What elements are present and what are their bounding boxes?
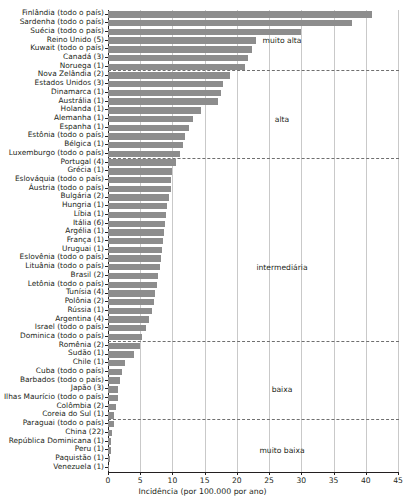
bar [108,107,201,113]
bar-rows: Finlândia (todo o país)Sardenha (todo o … [108,10,398,472]
bar-row: Letônia (todo o país) [108,280,398,289]
bar [108,247,162,253]
bar-row: Romênia (2) [108,341,398,350]
category-annotation-alta: alta [275,115,289,124]
bar [108,325,146,331]
bar-row: Bélgica (1) [108,141,398,150]
bar [108,377,120,383]
gridline-45 [398,10,399,472]
x-tick-mark-45 [398,472,399,475]
bar [108,133,185,139]
bar-row: Estônia (todo o país) [108,132,398,141]
bar [108,421,114,427]
bar-row: Lituânia (todo o país) [108,263,398,272]
x-tick-label-30: 30 [296,476,306,485]
x-axis-title: Incidência (por 100.000 por ano) [0,487,405,496]
bar [108,142,183,148]
bar [108,203,167,209]
category-separator [108,419,399,420]
bar-row: Venezuela (1) [108,463,398,472]
x-tick-mark-10 [172,472,173,475]
bar-row: Uruguai (1) [108,245,398,254]
bar-row: Paraguai (todo o país) [108,420,398,429]
bar-row: Paquistão (1) [108,455,398,464]
bar-row: Eslováquia (todo o país) [108,176,398,185]
bar [108,168,172,174]
x-tick-mark-15 [205,472,206,475]
bar-row: Finlândia (todo o país) [108,10,398,19]
category-separator [108,341,399,342]
bar [108,438,111,444]
bar [108,456,110,462]
bar-row: Brasil (2) [108,272,398,281]
bar-row: Estados Unidos (3) [108,80,398,89]
bar [108,151,180,157]
bar-row: República Dominicana (1) [108,437,398,446]
bar [108,343,140,349]
x-tick-label-45: 45 [393,476,403,485]
bar [108,159,176,165]
x-tick-label-35: 35 [329,476,339,485]
x-tick-mark-30 [301,472,302,475]
bar [108,194,169,200]
bar-row: Peru (1) [108,446,398,455]
bar [108,125,189,131]
x-tick-label-20: 20 [232,476,242,485]
bar-row: Suécia (todo o país) [108,27,398,36]
bar-row: Rússia (1) [108,306,398,315]
bar-row: Hungria (1) [108,202,398,211]
category-separator [108,70,399,71]
bar [108,238,163,244]
bar [108,369,122,375]
bar-row: China (22) [108,428,398,437]
x-tick-label-25: 25 [264,476,274,485]
bar-row: Austrália (1) [108,97,398,106]
x-tick-mark-40 [366,472,367,475]
bar [108,90,221,96]
bar-row: Polônia (2) [108,298,398,307]
bar-row: Israel (todo o país) [108,324,398,333]
x-tick-label-10: 10 [168,476,178,485]
bar [108,229,164,235]
x-tick-mark-5 [140,472,141,475]
bar [108,412,114,418]
incidence-bar-chart: Finlândia (todo o país)Sardenha (todo o … [0,0,405,504]
bar-row: Áustria (todo o país) [108,184,398,193]
bar [108,465,109,471]
bar-row: Sudão (1) [108,350,398,359]
bar [108,55,248,61]
bar [108,386,118,392]
bar-row: Barbados (todo o país) [108,376,398,385]
bar [108,316,149,322]
category-separator [108,158,399,159]
bar [108,186,171,192]
bar [108,290,155,296]
category-annotation-baixa: baixa [272,385,293,394]
bar-row: Tunísia (4) [108,289,398,298]
bar [108,308,152,314]
bar [108,20,352,26]
bar [108,255,161,261]
bar [108,221,165,227]
bar [108,64,245,70]
bar-row: Holanda (1) [108,106,398,115]
bar-row: Bulgária (2) [108,193,398,202]
bar-row: Canadá (3) [108,54,398,63]
bar [108,334,142,340]
bar-row: Argentina (4) [108,315,398,324]
category-annotation-muito-baixa: muito baixa [259,446,304,455]
x-tick-mark-35 [334,472,335,475]
bar-row: Chile (1) [108,359,398,368]
y-axis-label: Venezuela (1) [53,462,104,472]
bar [108,11,372,17]
bar-row: Japão (3) [108,385,398,394]
bar [108,116,193,122]
bar-row: Reino Unido (5) [108,36,398,45]
x-tick-label-40: 40 [361,476,371,485]
bar-row: Ilhas Maurício (todo o país) [108,394,398,403]
bar [108,72,230,78]
bar [108,299,154,305]
bar-row: Líbia (1) [108,210,398,219]
category-annotation-muito-alta: muito alta [263,36,302,45]
bar-row: Itália (6) [108,219,398,228]
